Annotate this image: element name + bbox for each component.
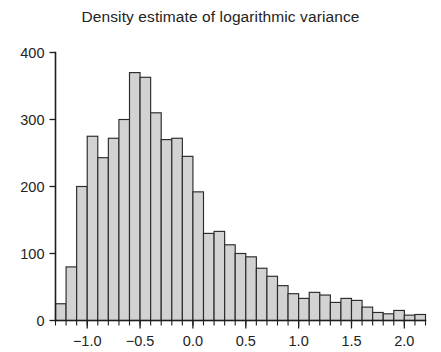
- histogram-bar: [108, 138, 119, 320]
- histogram-bar: [299, 298, 310, 320]
- histogram-bar: [256, 268, 267, 320]
- histogram-bar: [119, 120, 130, 321]
- histogram-bar: [330, 302, 341, 320]
- histogram-bar: [246, 257, 257, 321]
- histogram-plot: −1.0−0.50.00.51.01.52.00100200300400: [0, 0, 441, 352]
- histogram-bar: [56, 304, 67, 321]
- histogram-bar: [87, 136, 98, 320]
- histogram-bar: [204, 233, 215, 320]
- histogram-bar: [182, 156, 193, 320]
- histogram-bar: [140, 77, 151, 320]
- histogram-bar: [278, 286, 289, 321]
- histogram-bar: [394, 310, 405, 320]
- histogram-bar: [320, 295, 331, 320]
- x-tick-label: 0.0: [183, 333, 203, 349]
- histogram-bar: [383, 314, 394, 321]
- histogram-bar: [309, 292, 320, 320]
- histogram-bar: [130, 73, 141, 321]
- histogram-bar: [193, 192, 204, 321]
- histogram-bar: [415, 314, 426, 320]
- y-tick-label: 200: [20, 179, 44, 195]
- histogram-bar: [235, 254, 246, 321]
- histogram-bar: [66, 267, 77, 321]
- histogram-bar: [267, 276, 278, 320]
- y-tick-label: 100: [20, 246, 44, 262]
- x-tick-label: 2.0: [394, 333, 414, 349]
- x-tick-label: −1.0: [73, 333, 102, 349]
- y-tick-label: 300: [20, 112, 44, 128]
- histogram-bar: [362, 307, 373, 320]
- histogram-bar: [373, 312, 384, 320]
- histogram-figure: Density estimate of logarithmic variance…: [0, 0, 441, 352]
- y-tick-label: 0: [36, 313, 44, 329]
- histogram-bar: [225, 245, 236, 321]
- histogram-bar: [172, 138, 183, 320]
- histogram-bar: [98, 158, 109, 321]
- histogram-bar: [77, 187, 88, 321]
- histogram-bar: [214, 231, 225, 320]
- histogram-bar: [352, 300, 363, 320]
- histogram-bar: [288, 294, 299, 321]
- x-tick-label: 1.0: [289, 333, 309, 349]
- bars-group: [56, 73, 426, 321]
- histogram-bar: [151, 113, 162, 321]
- histogram-bar: [161, 140, 172, 321]
- y-tick-label: 400: [20, 45, 44, 61]
- x-tick-label: 0.5: [236, 333, 256, 349]
- x-tick-label: −0.5: [126, 333, 155, 349]
- histogram-bar: [404, 315, 415, 320]
- x-tick-label: 1.5: [341, 333, 361, 349]
- histogram-bar: [341, 298, 352, 320]
